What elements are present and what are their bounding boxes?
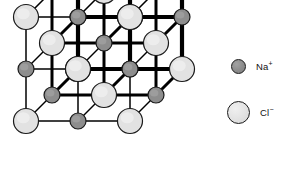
sphere-highlight [95,86,108,97]
nacl-lattice-figure: Na+ Cl− [0,0,299,195]
sphere-highlight [147,34,160,45]
sphere-highlight [124,63,132,70]
sphere-highlight [17,112,30,123]
sphere-highlight [121,8,134,19]
legend-label-chloride: Cl− [260,108,274,118]
legend-item-sodium: Na+ [231,59,273,74]
sphere-highlight [150,89,158,96]
sphere-highlight [121,112,134,123]
legend-label-chloride-charge: − [269,106,273,113]
sphere-highlight [46,89,54,96]
sphere-highlight [17,8,30,19]
legend-label-sodium: Na+ [256,62,273,72]
sphere-highlight [98,37,106,44]
legend-label-sodium-charge: + [269,60,273,67]
sphere-highlight [69,60,82,71]
sphere-highlight [176,11,184,18]
sphere-highlight [72,115,80,122]
chloride-ion [92,0,117,4]
chloride-sphere-icon [227,101,250,124]
sphere-highlight [43,34,56,45]
sodium-sphere-icon [231,59,246,74]
sphere-highlight [72,11,80,18]
sphere-highlight [173,60,186,71]
crystal-lattice-diagram [0,0,220,195]
legend-label-sodium-text: Na [256,61,269,72]
legend-item-chloride: Cl− [227,101,274,124]
sphere-highlight [20,63,28,70]
legend: Na+ Cl− [225,55,299,145]
legend-label-chloride-text: Cl [260,107,269,118]
